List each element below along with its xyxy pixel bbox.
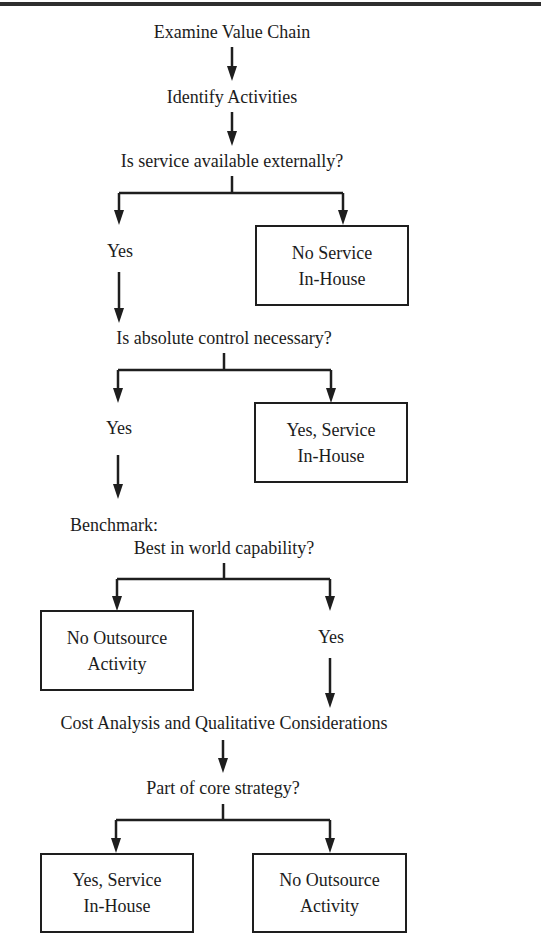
- box-line-1: No Outsource: [279, 867, 379, 893]
- node-benchmark: Benchmark:: [70, 515, 158, 535]
- outcome-final-no-outsource-activity: No Outsource Activity: [252, 853, 407, 933]
- outsourcing-decision-flowchart: Examine Value Chain Identify Activities …: [0, 0, 541, 938]
- outcome-no-service-in-house: No Service In-House: [255, 225, 409, 306]
- question-service-available-externally: Is service available externally?: [121, 151, 343, 171]
- box-line-2: Activity: [300, 893, 359, 919]
- outcome-final-yes-service-in-house: Yes, Service In-House: [40, 853, 194, 933]
- node-examine-value-chain: Examine Value Chain: [154, 22, 311, 42]
- outcome-no-outsource-activity: No Outsource Activity: [40, 610, 194, 691]
- node-cost-analysis: Cost Analysis and Qualitative Considerat…: [61, 713, 388, 733]
- box-line-2: In-House: [84, 893, 151, 919]
- question-best-in-world-capability: Best in world capability?: [134, 538, 314, 558]
- box-line-1: No Service: [292, 240, 372, 266]
- answer-yes-control: Yes: [106, 418, 132, 438]
- question-part-of-core-strategy: Part of core strategy?: [146, 778, 299, 798]
- box-line-2: Activity: [88, 651, 147, 677]
- box-line-2: In-House: [299, 266, 366, 292]
- box-line-1: Yes, Service: [286, 417, 375, 443]
- box-line-1: Yes, Service: [72, 867, 161, 893]
- answer-yes-best: Yes: [318, 627, 344, 647]
- answer-yes-available: Yes: [107, 241, 133, 261]
- node-identify-activities: Identify Activities: [167, 87, 297, 107]
- outcome-yes-service-in-house: Yes, Service In-House: [254, 402, 408, 483]
- question-absolute-control-necessary: Is absolute control necessary?: [116, 328, 331, 348]
- box-line-2: In-House: [298, 443, 365, 469]
- box-line-1: No Outsource: [67, 625, 167, 651]
